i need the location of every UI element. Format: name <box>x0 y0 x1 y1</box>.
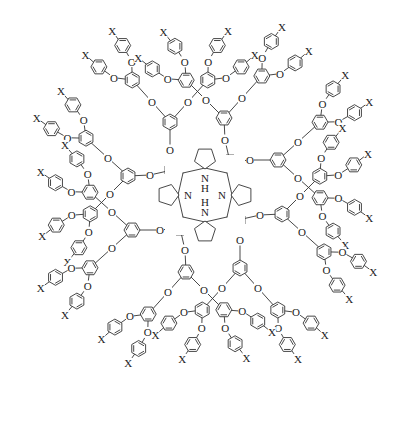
terminal-x-label: X <box>338 122 346 134</box>
nitrogen-label: N <box>218 189 226 201</box>
oxygen-label: O <box>144 326 152 338</box>
oxygen-label: O <box>318 98 326 110</box>
terminal-x-label: X <box>369 266 377 278</box>
terminal-x-label: X <box>38 230 46 242</box>
oxygen-label: O <box>258 52 266 64</box>
oxygen-label: O <box>254 282 262 294</box>
terminal-x-label: X <box>278 21 286 33</box>
oxygen-label: O <box>104 152 112 164</box>
terminal-x-label: X <box>294 353 302 365</box>
oxygen-label: O <box>294 136 302 148</box>
oxygen-label: O <box>236 234 244 246</box>
terminal-x-label: X <box>341 69 349 81</box>
oxygen-label: O <box>166 144 174 156</box>
terminal-x-label: X <box>160 26 168 38</box>
oxygen-label: O <box>238 305 246 317</box>
oxygen-label: O <box>221 134 229 146</box>
hydrogen-label: H <box>201 182 209 194</box>
terminal-x-label: X <box>305 45 313 57</box>
oxygen-label: O <box>108 242 116 254</box>
oxygen-label: O <box>298 226 306 238</box>
oxygen-label: O <box>276 68 284 80</box>
terminal-x-label: X <box>151 329 159 341</box>
oxygen-label: O <box>108 206 116 218</box>
oxygen-label: O <box>292 306 300 318</box>
oxygen-label: O <box>68 186 76 198</box>
oxygen-label: O <box>184 96 192 108</box>
oxygen-label: O <box>238 92 246 104</box>
terminal-x-label: X <box>108 25 116 37</box>
terminal-x-label: X <box>321 329 329 341</box>
oxygen-label: O <box>110 72 118 84</box>
terminal-x-label: X <box>224 25 232 37</box>
oxygen-label: O <box>164 286 172 298</box>
diagram-canvas: OOOXOXOOXOXOOOXOXOOXOXOOOXOXOOXOXOOOXOXO… <box>0 0 407 424</box>
terminal-x-label: X <box>345 293 353 305</box>
nitrogen-label: N <box>201 206 209 218</box>
porphyrin-core: NHHNNN <box>159 149 251 241</box>
oxygen-label: O <box>318 210 326 222</box>
oxygen-label: O <box>84 280 92 292</box>
terminal-x-label: X <box>268 326 276 338</box>
terminal-x-label: X <box>364 148 372 160</box>
terminal-x-label: X <box>33 112 41 124</box>
oxygen-label: O <box>148 96 156 108</box>
terminal-x-label: X <box>81 49 89 61</box>
oxygen-label: O <box>126 310 134 322</box>
oxygen-label: O <box>198 322 206 334</box>
terminal-x-label: X <box>61 309 69 321</box>
oxygen-label: O <box>68 262 76 274</box>
oxygen-label: O <box>338 246 346 258</box>
dendrimer-structure: OOOXOXOOXOXOOOXOXOOXOXOOOXOXOOXOXOOOXOXO… <box>0 0 407 424</box>
terminal-x-label: X <box>178 353 186 365</box>
oxygen-label: O <box>180 306 188 318</box>
oxygen-label: O <box>181 244 189 256</box>
oxygen-label: O <box>146 169 154 181</box>
terminal-x-label: X <box>365 96 373 108</box>
terminal-x-label: X <box>61 139 69 151</box>
terminal-x-label: X <box>97 333 105 345</box>
oxygen-label: O <box>80 114 88 126</box>
oxygen-label: O <box>202 94 210 106</box>
oxygen-label: O <box>246 154 254 166</box>
oxygen-label: O <box>222 72 230 84</box>
oxygen-label: O <box>317 152 325 164</box>
terminal-x-label: X <box>365 212 373 224</box>
oxygen-label: O <box>68 209 76 221</box>
oxygen-label: O <box>221 322 229 334</box>
oxygen-label: O <box>106 188 114 200</box>
nitrogen-label: N <box>184 189 192 201</box>
oxygen-label: O <box>164 73 172 85</box>
oxygen-label: O <box>218 282 226 294</box>
oxygen-label: O <box>256 209 264 221</box>
oxygen-label: O <box>334 169 342 181</box>
oxygen-label: O <box>296 190 304 202</box>
oxygen-label: O <box>200 284 208 296</box>
oxygen-label: O <box>204 56 212 68</box>
terminal-x-label: X <box>134 52 142 64</box>
oxygen-label: O <box>181 56 189 68</box>
terminal-x-label: X <box>37 282 45 294</box>
oxygen-label: O <box>334 192 342 204</box>
terminal-x-label: X <box>124 357 132 369</box>
oxygen-label: O <box>322 264 330 276</box>
terminal-x-label: X <box>57 85 65 97</box>
oxygen-label: O <box>85 226 93 238</box>
terminal-x-label: X <box>37 166 45 178</box>
oxygen-label: O <box>294 172 302 184</box>
oxygen-label: O <box>84 168 92 180</box>
oxygen-label: O <box>156 224 164 236</box>
terminal-x-label: X <box>242 352 250 364</box>
